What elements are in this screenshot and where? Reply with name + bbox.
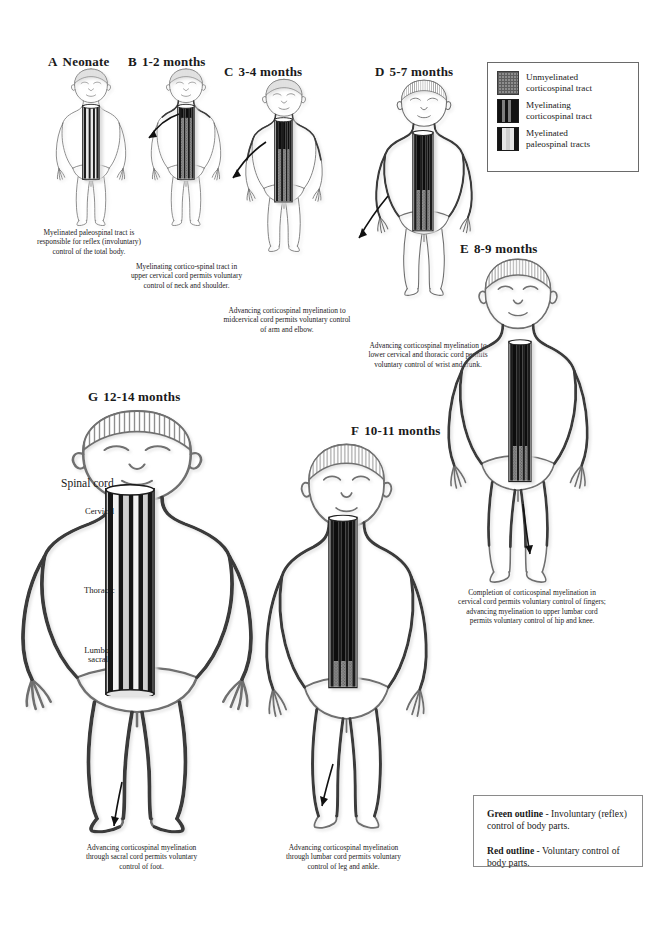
- cord-E: [507, 337, 533, 485]
- legend-unmyelinated-line2: corticospinal tract: [526, 83, 592, 93]
- legend-outline-colors: Green outline - Involuntary (reflex) con…: [473, 795, 643, 867]
- legend-tract-types: Unmyelinated corticospinal tract Myelina…: [487, 62, 639, 172]
- caption-E: Completion of corticospinal myelination …: [458, 588, 606, 626]
- arrow-E: [517, 500, 551, 562]
- panel-letter-G: G: [88, 389, 98, 404]
- legend-row-myelinating: Myelinating corticospinal tract: [497, 99, 629, 123]
- panel-age-F: 10-11 months: [364, 423, 440, 438]
- legend-paleospinal-line2: paleospinal tracts: [526, 139, 590, 149]
- cord-A: [81, 103, 101, 181]
- legend-label-unmyelinated: Unmyelinated corticospinal tract: [526, 72, 592, 94]
- panel-age-G: 12-14 months: [103, 389, 180, 404]
- caption-G: Advancing corticospinal myelination thro…: [75, 843, 208, 871]
- figure-canvas: ANeonate Myelinated paleospinal tract is…: [0, 0, 666, 934]
- myelinating-corticospinal-swatch: [497, 99, 519, 123]
- legend-unmyelinated-line1: Unmyelinated: [526, 72, 578, 82]
- arrow-C: [224, 136, 270, 188]
- legend-label-myelinated-paleospinal: Myelinated paleospinal tracts: [526, 128, 590, 150]
- cord-label-spinal-cord: Spinal cord: [61, 479, 114, 489]
- legend-myelinating-line1: Myelinating: [526, 100, 571, 110]
- legend-green-outline-term: Green outline: [487, 808, 543, 819]
- caption-F: Advancing corticospinal myelination thro…: [277, 843, 410, 871]
- cord-label-cervical: Cervical: [85, 507, 114, 517]
- legend-row-unmyelinated: Unmyelinated corticospinal tract: [497, 71, 629, 95]
- legend-row-myelinated-paleospinal: Myelinated paleospinal tracts: [497, 127, 629, 151]
- legend-red-outline-term: Red outline: [487, 845, 534, 856]
- cord-F: [327, 513, 359, 691]
- unmyelinated-corticospinal-swatch: [497, 71, 519, 95]
- legend-green-outline-row: Green outline - Involuntary (reflex) con…: [487, 808, 629, 831]
- cord-label-sacral: sacral: [88, 654, 108, 664]
- arrow-F: [309, 760, 345, 814]
- arrow-G: [100, 778, 136, 834]
- caption-C: Advancing corticospinal myelination to m…: [222, 306, 352, 334]
- caption-A: Myelinated paleospinal tract is responsi…: [30, 228, 148, 256]
- myelinated-paleospinal-swatch: [497, 127, 519, 151]
- arrow-D: [348, 190, 392, 248]
- cord-D: [411, 128, 435, 234]
- cord-label-lumbosacral: Lumbo- sacral: [80, 646, 116, 664]
- legend-myelinating-line2: corticospinal tract: [526, 111, 592, 121]
- caption-B: Myelinating cortico-spinal tract in uppe…: [130, 262, 243, 290]
- cord-label-thoracic: Thoracic: [84, 586, 115, 596]
- cord-C: [273, 116, 294, 204]
- panel-letter-F: F: [351, 423, 359, 438]
- arrow-B: [141, 108, 183, 148]
- legend-red-outline-row: Red outline - Voluntary control of body …: [487, 845, 629, 868]
- legend-label-myelinating: Myelinating corticospinal tract: [526, 100, 592, 122]
- legend-paleospinal-line1: Myelinated: [526, 128, 568, 138]
